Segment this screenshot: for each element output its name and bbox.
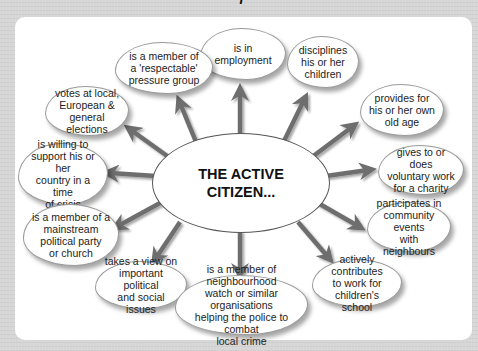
arrow-disciplines xyxy=(284,100,304,141)
bubble-pressure-group: is a member of a 'respectable' pressure … xyxy=(115,42,213,94)
bubble-support-country: is willing to support his or her country… xyxy=(18,143,108,205)
bubble-school: actively contributes to work for childre… xyxy=(312,259,402,307)
bubble-old-age: provides for his or her own old age xyxy=(360,84,444,136)
bubble-takes-view: takes a view on important political and … xyxy=(95,261,187,309)
bubble-neighbourhood-watch: is a member of neighbourhood watch or si… xyxy=(175,275,308,335)
bubble-charity: gives to or does voluntary work for a ch… xyxy=(378,145,464,195)
arrow-old-age xyxy=(312,127,352,157)
arrow-community-events xyxy=(318,203,358,226)
bubble-community-events: participates in community events with ne… xyxy=(367,202,451,252)
arrow-school xyxy=(298,222,328,257)
arrow-support-country xyxy=(110,173,156,176)
bubble-votes: votes at local, European & general elect… xyxy=(45,86,129,136)
arrow-political-party xyxy=(118,203,160,226)
arrow-votes xyxy=(131,130,170,158)
center-label: THE ACTIVE CITIZEN... xyxy=(198,165,284,201)
bubble-disciplines: disciplines his or her children xyxy=(287,36,359,88)
arrow-pressure-group xyxy=(180,103,196,142)
arrow-takes-view xyxy=(156,222,180,258)
active-citizen-center: THE ACTIVE CITIZEN... xyxy=(152,133,330,233)
bubble-employment: is in employment xyxy=(200,28,286,80)
arrow-charity xyxy=(326,170,368,176)
